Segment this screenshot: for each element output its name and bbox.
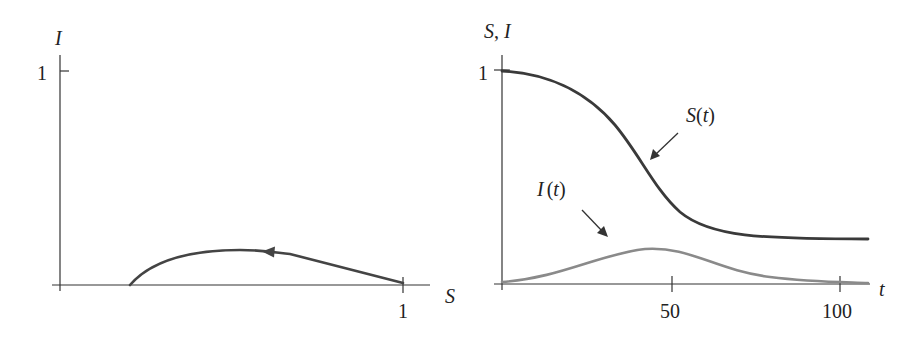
S-label-pointer-line [655, 133, 678, 155]
left-y-axis-label: I [54, 27, 63, 49]
S-label-arrow-icon [650, 149, 660, 160]
left-x-axis-label: S [445, 285, 455, 307]
I-label-pointer-line [582, 210, 603, 232]
left-y-tick-label: 1 [37, 62, 47, 84]
right-x-tick-label-100: 100 [822, 300, 852, 322]
S-curve [502, 71, 868, 239]
S-curve-label: S(t) [686, 104, 715, 127]
figure-canvas: 1 1 I S 1 50 100 S,I t S(t) I(t) [0, 0, 914, 338]
left-x-tick-label: 1 [398, 300, 408, 322]
phase-trajectory [130, 250, 403, 285]
right-y-axis-label: S,I [484, 20, 512, 42]
phase-plane-chart: 1 1 I S [37, 27, 455, 322]
trajectory-direction-arrow-icon [262, 247, 275, 258]
I-curve [502, 249, 868, 283]
right-x-axis-label: t [879, 278, 885, 300]
right-y-tick-label: 1 [478, 62, 488, 84]
I-curve-label: I(t) [536, 178, 566, 201]
right-x-tick-label-50: 50 [660, 300, 680, 322]
time-series-chart: 1 50 100 S,I t S(t) I(t) [478, 20, 885, 322]
